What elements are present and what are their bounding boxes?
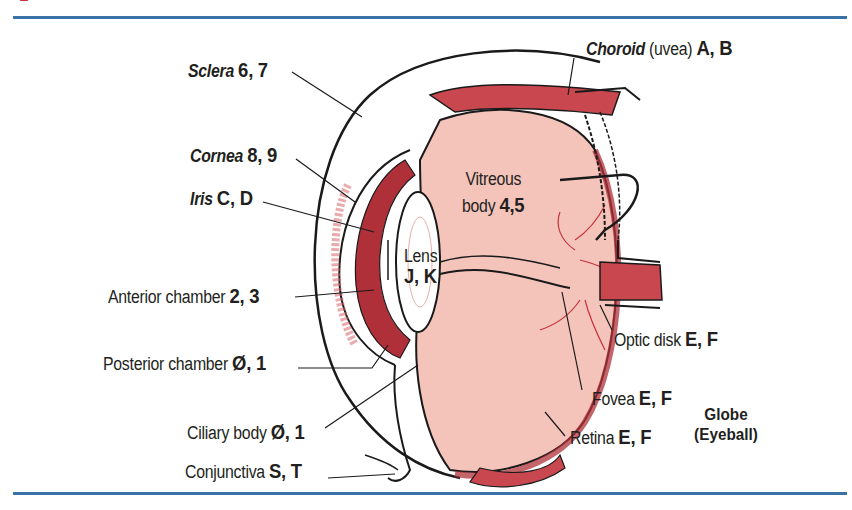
label-fovea: Fovea E, F bbox=[592, 386, 672, 410]
label-ciliary-body: Ciliary body Ø, 1 bbox=[187, 420, 305, 444]
conjunctiva-codes: S, T bbox=[269, 459, 302, 482]
figure-title-line1: Globe bbox=[690, 405, 762, 425]
figure-title-line2: (Eyeball) bbox=[690, 425, 762, 445]
choroid-codes: A, B bbox=[696, 36, 732, 59]
retina-codes: E, F bbox=[618, 425, 651, 448]
posterior-chamber-name: Posterior chamber bbox=[103, 354, 228, 374]
anterior-chamber-name: Anterior chamber bbox=[108, 287, 225, 307]
fovea-codes: E, F bbox=[639, 386, 672, 409]
label-anterior-chamber: Anterior chamber 2, 3 bbox=[108, 284, 259, 308]
vitreous-codes: 4,5 bbox=[499, 193, 524, 216]
label-lens: Lens J, K bbox=[404, 246, 437, 286]
label-posterior-chamber: Posterior chamber Ø, 1 bbox=[103, 351, 266, 375]
anterior-chamber-codes: 2, 3 bbox=[229, 284, 259, 307]
optic-nerve bbox=[600, 262, 662, 300]
choroid-band-top bbox=[430, 85, 620, 115]
choroid-name: Choroid bbox=[586, 39, 645, 59]
conjunctiva-name: Conjunctiva bbox=[185, 462, 265, 482]
label-vitreous-body: Vitreous body 4,5 bbox=[462, 166, 524, 219]
retina-name: Retina bbox=[570, 428, 614, 448]
cornea-codes: 8, 9 bbox=[247, 143, 277, 166]
lens-codes: J, K bbox=[404, 266, 437, 286]
vitreous-name-line1: Vitreous bbox=[462, 166, 524, 192]
ciliary-body-name: Ciliary body bbox=[187, 423, 267, 443]
sclera-name: Sclera bbox=[188, 61, 234, 81]
label-optic-disk: Optic disk E, F bbox=[614, 327, 718, 351]
fovea-name: Fovea bbox=[592, 389, 635, 409]
label-choroid: Choroid (uvea) A, B bbox=[586, 36, 732, 60]
label-sclera: Sclera 6, 7 bbox=[188, 58, 268, 82]
lens-name: Lens bbox=[404, 246, 437, 266]
vitreous-name-line2: body bbox=[462, 196, 495, 216]
choroid-qualifier: (uvea) bbox=[649, 39, 692, 59]
optic-disk-name: Optic disk bbox=[614, 330, 681, 350]
posterior-chamber-codes: Ø, 1 bbox=[232, 351, 266, 374]
iris-codes: C, D bbox=[217, 186, 253, 209]
ciliary-body-codes: Ø, 1 bbox=[271, 420, 305, 443]
iris-name: Iris bbox=[190, 189, 213, 209]
label-cornea: Cornea 8, 9 bbox=[190, 143, 277, 167]
sclera-codes: 6, 7 bbox=[238, 58, 268, 81]
label-retina: Retina E, F bbox=[570, 425, 651, 449]
label-conjunctiva: Conjunctiva S, T bbox=[185, 459, 302, 483]
label-iris: Iris C, D bbox=[190, 186, 253, 210]
cornea-name: Cornea bbox=[190, 146, 243, 166]
figure-title: Globe (Eyeball) bbox=[690, 405, 762, 445]
optic-disk-codes: E, F bbox=[685, 327, 718, 350]
